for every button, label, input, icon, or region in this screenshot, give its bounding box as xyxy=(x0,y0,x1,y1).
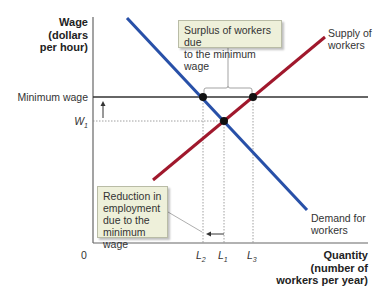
reduction-callout-line: employment xyxy=(103,202,162,214)
l2-label: L2 xyxy=(196,249,206,266)
reduction-leader xyxy=(168,212,202,232)
y-axis-label-line: (dollars xyxy=(20,29,88,42)
reduction-callout-line: due to the xyxy=(103,214,162,226)
y-axis-label-line: Wage xyxy=(20,16,88,29)
point-supply-at-min-wage xyxy=(249,93,257,101)
point-demand-at-min-wage xyxy=(199,93,207,101)
x-axis-label-line: (number of xyxy=(270,262,368,275)
l1-sub: 1 xyxy=(224,256,228,263)
y-axis-label-line: per hour) xyxy=(20,41,88,54)
l2-sub: 2 xyxy=(202,256,206,263)
supply-label-line: workers xyxy=(328,39,372,51)
x-axis-label-line: workers per year) xyxy=(270,274,368,287)
demand-label-line: Demand for xyxy=(311,212,366,224)
w1-main: W xyxy=(74,115,84,127)
w1-sub: 1 xyxy=(84,122,88,129)
w1-label: W1 xyxy=(60,115,88,132)
point-equilibrium xyxy=(220,117,228,125)
minimum-wage-label: Minimum wage xyxy=(0,91,88,103)
reduction-callout-line: minimum wage xyxy=(103,226,162,250)
l3-sub: 3 xyxy=(253,256,257,263)
y-axis-label: Wage (dollars per hour) xyxy=(20,16,88,54)
demand-label-line: workers xyxy=(311,224,366,236)
reduction-callout-line: Reduction in xyxy=(103,190,162,202)
surplus-callout: Surplus of workers due to the minimum wa… xyxy=(178,20,282,48)
demand-label: Demand for workers xyxy=(311,212,366,236)
reduction-callout: Reduction in employment due to the minim… xyxy=(97,186,168,238)
supply-label: Supply of workers xyxy=(328,27,372,51)
l3-label: L3 xyxy=(247,249,257,266)
origin-label: 0 xyxy=(81,249,87,261)
surplus-callout-line: Surplus of workers due xyxy=(184,24,276,48)
surplus-bracket xyxy=(204,86,252,93)
arrowhead-left-icon xyxy=(206,232,211,237)
l1-label: L1 xyxy=(218,249,228,266)
surplus-callout-line: to the minimum wage xyxy=(184,48,276,72)
x-axis-label: Quantity (number of workers per year) xyxy=(270,249,368,287)
x-axis-label-line: Quantity xyxy=(270,249,368,262)
arrowhead-up-icon xyxy=(101,101,106,106)
supply-label-line: Supply of xyxy=(328,27,372,39)
